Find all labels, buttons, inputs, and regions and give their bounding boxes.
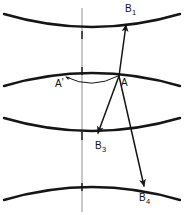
point-label-a-prime-mark: ': [62, 77, 64, 88]
curve-2: [4, 73, 180, 86]
point-label-a-prime: A': [55, 79, 64, 89]
point-label-a: A: [121, 78, 128, 88]
point-label-b1-base: B: [125, 3, 132, 14]
point-label-a-prime-base: A: [55, 78, 62, 89]
diagram-canvas: [0, 0, 184, 215]
curve-1: [4, 14, 180, 27]
point-label-b3: B3: [95, 141, 106, 151]
point-label-b4: B4: [139, 193, 150, 203]
ray-a-to-b1: [119, 25, 126, 76]
point-label-b1: B1: [125, 4, 136, 14]
ray-a-to-b4: [119, 76, 144, 186]
ray-diagram-figure: B1 A A' B3 B4: [0, 0, 184, 215]
point-label-b3-base: B: [95, 140, 102, 151]
curve-3: [4, 118, 180, 131]
point-label-b3-subscript: 3: [102, 145, 106, 154]
ray-a-to-b3: [98, 76, 119, 133]
arc-a-to-a-prime: [66, 76, 118, 83]
point-label-b4-subscript: 4: [146, 197, 150, 206]
point-label-b4-base: B: [139, 192, 146, 203]
point-label-a-base: A: [121, 77, 128, 88]
point-label-b1-subscript: 1: [132, 8, 136, 17]
curve-4: [4, 187, 180, 200]
